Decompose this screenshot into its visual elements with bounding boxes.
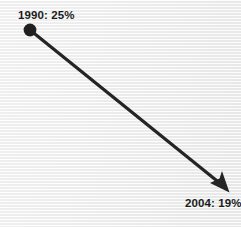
- filled-circle-marker-icon: [24, 24, 37, 37]
- start-point-label: 1990: 25%: [18, 9, 75, 21]
- end-point-label: 2004: 19%: [185, 197, 241, 209]
- down-right-arrow-icon: [210, 171, 230, 193]
- trend-arrow-figure: 1990: 25% 2004: 19%: [0, 0, 241, 227]
- trend-line: [30, 30, 222, 185]
- trend-arrow-graphic: [0, 0, 241, 227]
